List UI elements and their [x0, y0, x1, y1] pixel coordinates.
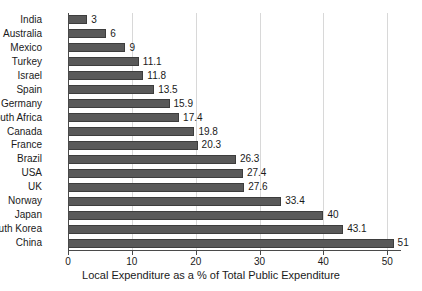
bar-value-label: 17.4 — [183, 111, 202, 125]
category-label: South Africa — [0, 111, 42, 125]
bar-value-label: 19.8 — [198, 125, 217, 139]
bar — [68, 15, 87, 24]
bar — [68, 57, 139, 66]
x-axis-tick-label: 10 — [126, 256, 137, 267]
bar-value-label: 20.3 — [202, 138, 221, 152]
bar-value-label: 40 — [327, 208, 338, 222]
plot-area: India3Australia6Mexico9Turkey11.1Israel1… — [68, 13, 400, 250]
bar — [68, 169, 243, 178]
bar-value-label: 51 — [398, 236, 409, 250]
bar-row: USA27.4 — [68, 166, 400, 180]
x-axis-tick — [260, 251, 261, 255]
bar-row: Australia6 — [68, 27, 400, 41]
x-axis-tick-label: 30 — [254, 256, 265, 267]
bar — [68, 239, 394, 248]
category-label: USA — [21, 166, 42, 180]
bar-row: Canada19.8 — [68, 125, 400, 139]
bar-row: UK27.6 — [68, 180, 400, 194]
bar — [68, 155, 236, 164]
category-label: Norway — [8, 194, 42, 208]
bar-value-label: 11.8 — [147, 69, 166, 83]
bar-row: India3 — [68, 13, 400, 27]
bar-value-label: 15.9 — [174, 97, 193, 111]
x-axis-line — [68, 250, 401, 251]
category-label: Israel — [18, 69, 42, 83]
category-label: Brazil — [17, 152, 42, 166]
x-axis-tick — [323, 251, 324, 255]
category-label: Spain — [16, 83, 42, 97]
bar — [68, 99, 170, 108]
bar — [68, 85, 154, 94]
bar-row: Norway33.4 — [68, 194, 400, 208]
bar-value-label: 26.3 — [240, 152, 259, 166]
bar-value-label: 6 — [110, 27, 116, 41]
x-axis-tick-label: 40 — [318, 256, 329, 267]
x-axis-tick-label: 0 — [65, 256, 71, 267]
category-label: China — [16, 236, 42, 250]
x-axis-title: Local Expenditure as a % of Total Public… — [0, 269, 422, 281]
category-label: South Korea — [0, 222, 42, 236]
category-label: India — [20, 13, 42, 27]
bar — [68, 29, 106, 38]
bar-value-label: 13.5 — [158, 83, 177, 97]
bar — [68, 211, 323, 220]
x-axis-tick — [196, 251, 197, 255]
bar — [68, 183, 244, 192]
bar-value-label: 33.4 — [285, 194, 304, 208]
bar-row: France20.3 — [68, 138, 400, 152]
category-label: Mexico — [10, 41, 42, 55]
bar-row: South Africa17.4 — [68, 111, 400, 125]
x-axis-tick-label: 20 — [190, 256, 201, 267]
category-label: Japan — [15, 208, 42, 222]
x-axis-tick-label: 50 — [382, 256, 393, 267]
bar — [68, 71, 143, 80]
category-label: Germany — [1, 97, 42, 111]
x-axis-tick — [68, 251, 69, 255]
bar-value-label: 27.6 — [248, 180, 267, 194]
bar-row: Israel11.8 — [68, 69, 400, 83]
bar-row: Spain13.5 — [68, 83, 400, 97]
bar — [68, 127, 194, 136]
x-axis-tick — [132, 251, 133, 255]
bar-value-label: 11.1 — [143, 55, 162, 69]
bar — [68, 113, 179, 122]
bar-value-label: 3 — [91, 13, 97, 27]
category-label: Canada — [7, 125, 42, 139]
bar-chart: India3Australia6Mexico9Turkey11.1Israel1… — [0, 0, 422, 291]
category-label: Australia — [3, 27, 42, 41]
bar — [68, 197, 281, 206]
bar-row: China51 — [68, 236, 400, 250]
bar-value-label: 27.4 — [247, 166, 266, 180]
y-axis-line — [68, 13, 69, 251]
bar-value-label: 43.1 — [347, 222, 366, 236]
bar-row: Germany15.9 — [68, 97, 400, 111]
bar — [68, 43, 125, 52]
bar-row: Turkey11.1 — [68, 55, 400, 69]
bar-row: South Korea43.1 — [68, 222, 400, 236]
category-label: Turkey — [12, 55, 42, 69]
bar-row: Japan40 — [68, 208, 400, 222]
bar — [68, 141, 198, 150]
bar-row: Brazil26.3 — [68, 152, 400, 166]
bar-value-label: 9 — [129, 41, 135, 55]
x-axis-tick — [387, 251, 388, 255]
category-label: UK — [28, 180, 42, 194]
category-label: France — [11, 138, 42, 152]
bar-row: Mexico9 — [68, 41, 400, 55]
bar — [68, 225, 343, 234]
